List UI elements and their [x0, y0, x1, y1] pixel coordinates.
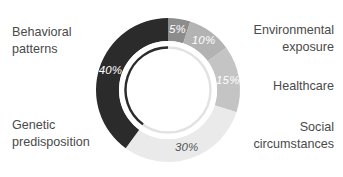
- category-label-healthcare: Healthcare: [222, 78, 334, 95]
- donut-slice-value: 10%: [192, 34, 216, 46]
- category-label-behavioral-patterns: Behavioral patterns: [12, 24, 104, 57]
- category-label-environmental-exposure: Environmental exposure: [222, 22, 334, 55]
- category-label-social-circumstances: Social circumstances: [222, 119, 334, 152]
- donut-hole: [128, 50, 208, 130]
- donut-chart-figure: 5%10%15%30%40% Behavioral patterns Genet…: [0, 0, 343, 177]
- donut-slice-value: 40%: [99, 64, 123, 76]
- donut-chart-svg: 5%10%15%30%40%: [96, 6, 241, 171]
- donut-chart-area: 5%10%15%30%40%: [96, 6, 241, 171]
- donut-slice-value: 5%: [169, 23, 186, 35]
- category-label-genetic-predisposition: Genetic predisposition: [12, 117, 110, 150]
- donut-slice-value: 30%: [175, 141, 199, 153]
